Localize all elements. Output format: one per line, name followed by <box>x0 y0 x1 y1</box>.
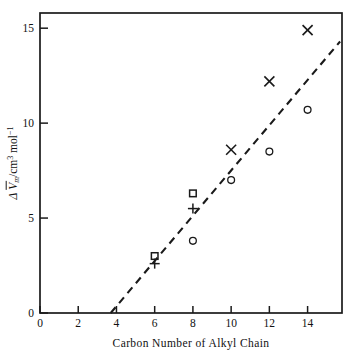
x-tick-label-6: 6 <box>152 317 158 329</box>
chart-background <box>0 0 358 358</box>
x-tick-label-12: 12 <box>264 317 276 329</box>
x-tick-label-4: 4 <box>114 317 120 329</box>
x-tick-label-2: 2 <box>75 317 81 329</box>
y-tick-label-0: 0 <box>28 307 34 319</box>
x-tick-label-0: 0 <box>37 317 43 329</box>
y-tick-label-5: 5 <box>28 212 34 224</box>
y-tick-label-10: 10 <box>23 117 35 129</box>
y-axis-label: Δ Vm/cm3 mol−1 <box>6 127 21 201</box>
x-axis-label: Carbon Number of Alkyl Chain <box>113 337 270 350</box>
x-tick-label-8: 8 <box>190 317 196 329</box>
x-tick-label-10: 10 <box>225 317 237 329</box>
chart-svg: 02468101214 051015 Carbon Number of Alky… <box>0 0 358 358</box>
y-axis-label-group: Δ Vm/cm3 mol−1 <box>6 127 21 201</box>
x-axis-label-text: Carbon Number of Alkyl Chain <box>113 337 270 350</box>
y-axis-label-text: Δ Vm/cm3 mol−1 <box>6 127 21 201</box>
x-tick-label-14: 14 <box>302 317 314 329</box>
chart-figure: 02468101214 051015 Carbon Number of Alky… <box>0 0 358 358</box>
y-tick-label-15: 15 <box>23 22 35 34</box>
